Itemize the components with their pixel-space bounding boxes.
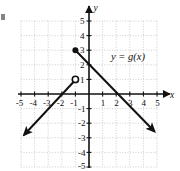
y-tick-label: 3 <box>80 45 85 55</box>
x-tick-label: 4 <box>142 98 147 108</box>
y-tick-label: 2 <box>80 60 85 70</box>
y-tick-labels: 5 4 3 2 1 -1 -2 -3 -4 -5 <box>78 16 86 170</box>
y-tick-label: 5 <box>80 16 85 26</box>
y-axis-label: y <box>93 3 99 13</box>
graph-screenshot: x y y = g(x) -5 -4 -3 -2 -1 1 2 3 4 5 5 … <box>0 0 180 170</box>
open-endpoint-circle <box>72 76 78 82</box>
x-axis-label: x <box>169 90 175 100</box>
x-tick-label: 3 <box>128 98 133 108</box>
x-tick-label: 1 <box>101 98 106 108</box>
x-tick-label: 5 <box>155 98 160 108</box>
y-tick-label: -1 <box>78 104 86 114</box>
x-tick-labels: -5 -4 -3 -2 -1 1 2 3 4 5 <box>16 98 160 108</box>
axes <box>18 6 170 168</box>
y-tick-label: -5 <box>78 161 86 171</box>
function-left-branch <box>24 81 74 135</box>
x-tick-label: -1 <box>70 98 78 108</box>
y-tick-label: -4 <box>78 148 86 158</box>
y-tick-label: 4 <box>80 31 85 41</box>
x-tick-label: -4 <box>29 98 37 108</box>
x-tick-label: 2 <box>114 98 119 108</box>
function-graph-figure: x y y = g(x) -5 -4 -3 -2 -1 1 2 3 4 5 5 … <box>0 0 180 170</box>
x-tick-label: -5 <box>16 98 24 108</box>
closed-endpoint-dot <box>72 47 78 53</box>
x-tick-label: -3 <box>43 98 51 108</box>
y-tick-label: 1 <box>80 75 85 85</box>
function-right-branch <box>75 50 154 131</box>
x-tick-label: -2 <box>57 98 65 108</box>
y-tick-label: -2 <box>78 118 86 128</box>
function-label: y = g(x) <box>110 51 145 63</box>
y-tick-label: -3 <box>78 133 86 143</box>
